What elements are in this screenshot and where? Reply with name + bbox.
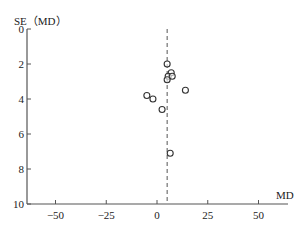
x-tick-label: 0: [154, 209, 160, 221]
y-tick-label: 4: [19, 93, 25, 105]
data-point: [164, 61, 170, 67]
y-tick-label: 10: [13, 198, 25, 210]
y-axis-title: SE（MD）: [14, 15, 67, 27]
data-points: [144, 61, 189, 156]
data-point: [159, 107, 165, 113]
x-tick-label: −50: [47, 209, 65, 221]
x-tick-label: −25: [98, 209, 116, 221]
x-tick-label: 25: [202, 209, 214, 221]
data-point: [167, 150, 173, 156]
funnel-plot: 0246810−50−2502550 SE（MD） MD: [0, 0, 305, 229]
x-tick-label: 50: [253, 209, 265, 221]
y-tick-label: 8: [19, 163, 25, 175]
x-axis-title: MD: [276, 189, 294, 201]
data-point: [144, 93, 150, 99]
y-tick-label: 2: [19, 58, 25, 70]
axes: 0246810−50−2502550: [13, 23, 288, 221]
data-point: [164, 77, 170, 83]
y-tick-label: 6: [19, 128, 25, 140]
data-point: [150, 96, 156, 102]
data-point: [182, 87, 188, 93]
